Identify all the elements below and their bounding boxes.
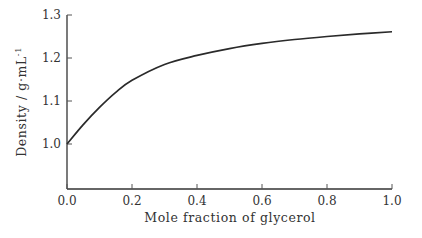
y-tick-label: 1.1 — [42, 94, 61, 108]
y-tick-label: 1.3 — [42, 8, 61, 22]
x-axis-title: Mole fraction of glycerol — [144, 210, 315, 225]
y-tick-label: 1.2 — [42, 51, 61, 65]
x-tick-label: 1.0 — [382, 194, 401, 208]
x-tick-label: 0.4 — [187, 194, 206, 208]
y-axis-title: Density / g·mL-1 — [14, 47, 29, 157]
plot-area: 0.00.20.40.60.81.01.01.11.21.3 — [42, 8, 402, 208]
y-axis-title-sup: -1 — [14, 47, 23, 56]
x-tick-label: 0.8 — [317, 194, 336, 208]
density-chart: 0.00.20.40.60.81.01.01.11.21.3 Mole frac… — [0, 0, 422, 238]
x-tick-label: 0.0 — [57, 194, 76, 208]
density-curve — [67, 32, 392, 144]
x-tick-label: 0.2 — [122, 194, 141, 208]
y-tick-label: 1.0 — [42, 137, 61, 151]
y-axis-title-main: Density / g·mL — [14, 56, 29, 157]
x-tick-label: 0.6 — [252, 194, 271, 208]
